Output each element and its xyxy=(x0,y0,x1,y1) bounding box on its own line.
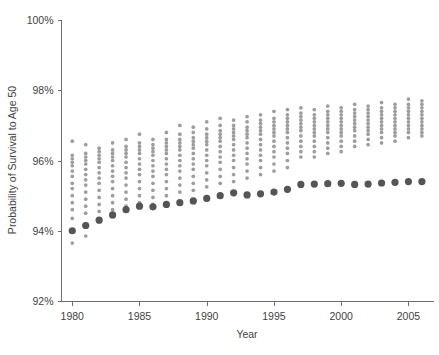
scatter-point xyxy=(111,194,115,198)
scatter-point xyxy=(232,159,236,163)
scatter-point xyxy=(205,153,209,157)
scatter-point xyxy=(138,141,142,145)
scatter-point xyxy=(393,102,397,106)
scatter-point xyxy=(299,129,303,133)
aggregate-point xyxy=(203,195,210,202)
scatter-point xyxy=(339,127,343,131)
scatter-point xyxy=(312,120,316,124)
scatter-point xyxy=(380,141,384,145)
scatter-point xyxy=(111,148,115,152)
scatter-point xyxy=(420,124,424,128)
scatter-point xyxy=(205,148,209,152)
scatter-point xyxy=(272,124,276,128)
scatter-point xyxy=(407,97,411,101)
scatter-point xyxy=(353,118,357,122)
scatter-point xyxy=(178,159,182,163)
scatter-point xyxy=(70,241,74,245)
scatter-point xyxy=(366,143,370,147)
y-tick-label: 100% xyxy=(27,14,54,26)
scatter-point xyxy=(232,148,236,152)
scatter-point xyxy=(339,131,343,135)
scatter-point xyxy=(380,101,384,105)
scatter-point xyxy=(245,141,249,145)
scatter-point xyxy=(232,143,236,147)
scatter-point xyxy=(84,173,88,177)
aggregate-point xyxy=(96,217,103,224)
scatter-point xyxy=(111,152,115,156)
scatter-point xyxy=(393,131,397,135)
scatter-point xyxy=(70,217,74,221)
scatter-point xyxy=(286,146,290,150)
scatter-point xyxy=(286,108,290,112)
scatter-point xyxy=(299,155,303,159)
aggregate-point xyxy=(163,201,170,208)
scatter-point xyxy=(353,108,357,112)
scatter-point xyxy=(178,132,182,136)
scatter-point xyxy=(366,138,370,142)
aggregate-point xyxy=(324,180,331,187)
scatter-point xyxy=(191,162,195,166)
scatter-point xyxy=(70,139,74,143)
scatter-point xyxy=(245,120,249,124)
x-axis-tick-labels: 198019851990199520002005 xyxy=(61,310,421,322)
scatter-point xyxy=(191,143,195,147)
scatter-point xyxy=(245,152,249,156)
scatter-point xyxy=(151,181,155,185)
scatter-point xyxy=(138,194,142,198)
scatter-point xyxy=(165,162,169,166)
scatter-point xyxy=(407,113,411,117)
x-axis: 198019851990199520002005 Year xyxy=(61,302,434,341)
caption-text xyxy=(0,349,439,355)
scatter-point xyxy=(326,127,330,131)
scatter-point xyxy=(420,113,424,117)
scatter-point xyxy=(366,132,370,136)
scatter-point xyxy=(191,136,195,140)
aggregate-point xyxy=(109,211,116,218)
scatter-point xyxy=(420,120,424,124)
scatter-point xyxy=(232,138,236,142)
x-axis-ticks xyxy=(73,302,409,307)
scatter-point xyxy=(84,190,88,194)
scatter-point xyxy=(312,139,316,143)
scatter-point xyxy=(178,138,182,142)
scatter-point xyxy=(97,196,101,200)
scatter-point xyxy=(339,150,343,154)
scatter-point xyxy=(218,160,222,164)
scatter-point xyxy=(97,153,101,157)
scatter-point xyxy=(312,108,316,112)
scatter-point xyxy=(393,109,397,113)
scatter-point xyxy=(151,146,155,150)
aggregate-point xyxy=(311,180,318,187)
scatter-point xyxy=(70,164,74,168)
y-axis: 100%98%96%94%92% Probability of Survival… xyxy=(6,14,62,307)
scatter-point xyxy=(151,169,155,173)
scatter-point xyxy=(178,164,182,168)
scatter-point xyxy=(218,155,222,159)
scatter-point xyxy=(232,180,236,184)
scatter-point xyxy=(84,152,88,156)
aggregate-point xyxy=(230,189,237,196)
scatter-point xyxy=(272,134,276,138)
scatter-point xyxy=(286,131,290,135)
scatter-point xyxy=(353,115,357,119)
scatter-point xyxy=(178,153,182,157)
scatter-point xyxy=(272,127,276,131)
scatter-point xyxy=(407,136,411,140)
scatter-point xyxy=(84,143,88,147)
scatter-point xyxy=(97,210,101,214)
scatter-point xyxy=(259,148,263,152)
scatter-point xyxy=(165,167,169,171)
scatter-point xyxy=(272,150,276,154)
scatter-point xyxy=(366,122,370,126)
scatter-point xyxy=(111,201,115,205)
scatter-point xyxy=(70,160,74,164)
scatter-point xyxy=(420,109,424,113)
scatter-point xyxy=(97,150,101,154)
scatter-point xyxy=(407,131,411,135)
scatter-point xyxy=(245,115,249,119)
scatter-point xyxy=(111,155,115,159)
scatter-point xyxy=(151,196,155,200)
scatter-point xyxy=(191,167,195,171)
scatter-point xyxy=(393,124,397,128)
scatter-point xyxy=(70,187,74,191)
